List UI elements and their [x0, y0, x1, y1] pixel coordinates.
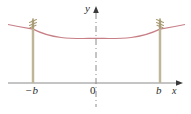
y-axis-label: y — [85, 3, 90, 14]
right-pole-insulator-icon — [157, 19, 164, 29]
figure-container: −b 0 b x y — [0, 0, 191, 114]
catenary-figure — [0, 0, 191, 114]
x-axis-arrow-icon — [176, 80, 183, 86]
left-pole-insulator-icon — [30, 19, 37, 29]
origin-label: 0 — [90, 85, 96, 96]
tick-label-pos-b: b — [156, 85, 162, 96]
x-axis-label: x — [172, 86, 176, 96]
tick-label-neg-b: −b — [25, 85, 38, 96]
y-axis-arrow-icon — [93, 6, 99, 13]
